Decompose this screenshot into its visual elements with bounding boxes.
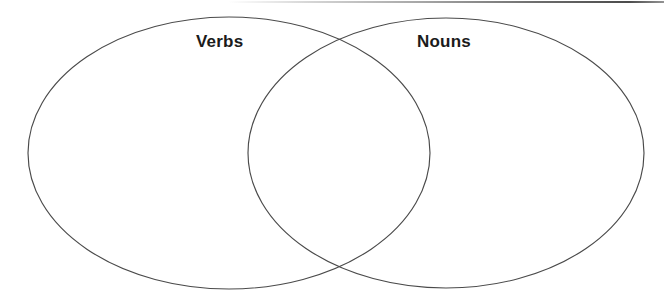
venn-label-left: Verbs <box>196 33 243 50</box>
venn-diagram-canvas <box>0 0 672 302</box>
venn-circle-left[interactable] <box>28 17 430 289</box>
venn-label-right: Nouns <box>417 33 471 50</box>
venn-circle-right[interactable] <box>248 18 644 288</box>
venn-diagram-page: Verbs Nouns <box>0 0 672 302</box>
